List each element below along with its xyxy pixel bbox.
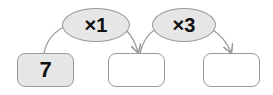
- answer-box-2[interactable]: [203, 53, 260, 87]
- box-value: 7: [39, 57, 51, 83]
- operator-times-3: ×3: [152, 8, 216, 42]
- operator-times-1: ×1: [62, 8, 130, 42]
- operator-label: ×3: [173, 14, 196, 37]
- start-value-box: 7: [17, 53, 74, 87]
- answer-box-1[interactable]: [108, 53, 165, 87]
- operator-label: ×1: [85, 14, 108, 37]
